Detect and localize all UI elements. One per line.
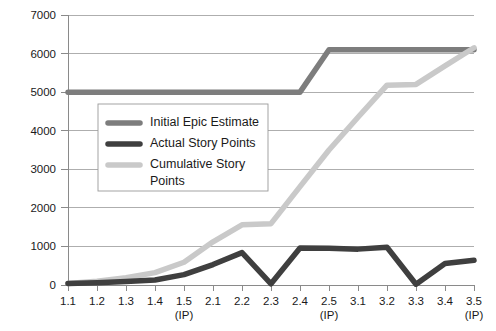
x-tick-sublabel: (IP) <box>465 309 484 321</box>
x-tick-label: 3.1 <box>350 295 366 307</box>
series-line-actual-story-points <box>68 247 474 284</box>
x-tick-label: 1.5 <box>176 295 192 307</box>
y-tick-label: 7000 <box>30 9 56 21</box>
x-tick-label: 3.5 <box>466 295 482 307</box>
chart-container: 01000200030004000500060007000 1.11.21.31… <box>0 0 496 331</box>
legend-label-3: Cumulative Story <box>150 157 246 171</box>
x-tick-label: 1.1 <box>60 295 76 307</box>
chart-legend: Initial Epic EstimateActual Story Points… <box>98 104 268 191</box>
x-tick-label: 2.2 <box>234 295 250 307</box>
y-tick-label: 1000 <box>30 240 56 252</box>
x-tick-label: 1.2 <box>89 295 105 307</box>
x-tick-label: 3.3 <box>408 295 424 307</box>
y-tick-label: 6000 <box>30 48 56 60</box>
line-chart: 01000200030004000500060007000 1.11.21.31… <box>0 0 496 331</box>
legend-label-3-line2: Points <box>150 174 185 188</box>
x-tick-sublabel: (IP) <box>175 309 194 321</box>
x-tick-label: 3.2 <box>379 295 395 307</box>
y-tick-label: 0 <box>50 279 56 291</box>
x-tick-label: 1.3 <box>118 295 134 307</box>
y-tick-label: 5000 <box>30 86 56 98</box>
x-tick-sublabel: (IP) <box>320 309 339 321</box>
y-axis-labels: 01000200030004000500060007000 <box>30 9 56 291</box>
x-axis-labels: 1.11.21.31.41.5(IP)2.12.22.32.42.5(IP)3.… <box>60 295 483 321</box>
legend-label-1: Initial Epic Estimate <box>150 115 259 129</box>
legend-label-2: Actual Story Points <box>150 136 256 150</box>
y-tick-label: 4000 <box>30 125 56 137</box>
x-tick-label: 2.4 <box>292 295 309 307</box>
y-tick-label: 2000 <box>30 202 56 214</box>
x-tick-label: 2.3 <box>263 295 279 307</box>
x-tick-label: 1.4 <box>147 295 164 307</box>
x-tick-label: 3.4 <box>437 295 454 307</box>
x-tick-label: 2.5 <box>321 295 337 307</box>
y-tick-label: 3000 <box>30 163 56 175</box>
x-tick-label: 2.1 <box>205 295 221 307</box>
